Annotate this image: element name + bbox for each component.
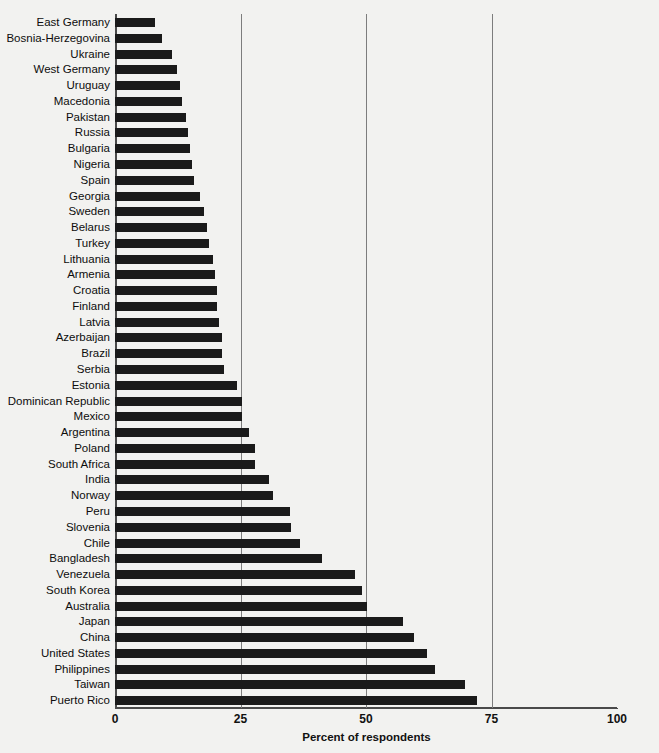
category-label: Dominican Republic	[2, 393, 110, 410]
category-label: East Germany	[2, 14, 110, 31]
bar	[115, 412, 242, 421]
bar-row: Estonia	[115, 377, 617, 394]
bar	[115, 302, 217, 311]
bar-chart: East GermanyBosnia-HerzegovinaUkraineWes…	[0, 0, 659, 753]
category-label: Sweden	[2, 203, 110, 220]
category-label: Mexico	[2, 408, 110, 425]
category-label: South Africa	[2, 456, 110, 473]
bar-row: Dominican Republic	[115, 393, 617, 410]
category-label: South Korea	[2, 582, 110, 599]
bar	[115, 192, 200, 201]
bar-row: Finland	[115, 298, 617, 315]
bar	[115, 239, 209, 248]
bar-row: Philippines	[115, 661, 617, 678]
category-label: Philippines	[2, 661, 110, 678]
category-label: Georgia	[2, 188, 110, 205]
category-label: Bangladesh	[2, 550, 110, 567]
bar-row: Chile	[115, 535, 617, 552]
category-label: Lithuania	[2, 251, 110, 268]
bar	[115, 34, 162, 43]
bar	[115, 270, 215, 279]
x-tick-label-0: 0	[112, 712, 119, 726]
category-label: Bulgaria	[2, 140, 110, 157]
bar-row: Australia	[115, 598, 617, 615]
bar	[115, 349, 222, 358]
bar	[115, 491, 273, 500]
bar	[115, 160, 192, 169]
bar-row: Bangladesh	[115, 550, 617, 567]
category-label: Australia	[2, 598, 110, 615]
bar-row: Nigeria	[115, 156, 617, 173]
bar	[115, 633, 414, 642]
category-label: Taiwan	[2, 676, 110, 693]
bar	[115, 255, 213, 264]
bar-row: Pakistan	[115, 109, 617, 126]
bar-row: Japan	[115, 613, 617, 630]
plot-area: East GermanyBosnia-HerzegovinaUkraineWes…	[115, 14, 617, 708]
category-label: India	[2, 471, 110, 488]
bar-row: Norway	[115, 487, 617, 504]
bar	[115, 18, 155, 27]
bar-row: China	[115, 629, 617, 646]
bar-row: South Korea	[115, 582, 617, 599]
bar-row: Spain	[115, 172, 617, 189]
bar-row: Sweden	[115, 203, 617, 220]
bar	[115, 696, 477, 705]
category-label: Pakistan	[2, 109, 110, 126]
category-label: Puerto Rico	[2, 692, 110, 709]
bar	[115, 460, 255, 469]
bar-row: Georgia	[115, 188, 617, 205]
category-label: Serbia	[2, 361, 110, 378]
bar	[115, 617, 403, 626]
category-label: Venezuela	[2, 566, 110, 583]
category-label: Finland	[2, 298, 110, 315]
bar	[115, 223, 207, 232]
bar	[115, 680, 465, 689]
bar-row: Mexico	[115, 408, 617, 425]
category-label: Chile	[2, 535, 110, 552]
bar	[115, 444, 255, 453]
category-label: Macedonia	[2, 93, 110, 110]
category-label: Brazil	[2, 345, 110, 362]
bar	[115, 397, 242, 406]
bar-row: Ukraine	[115, 46, 617, 63]
bar	[115, 176, 194, 185]
bar-row: Russia	[115, 124, 617, 141]
bar-row: Latvia	[115, 314, 617, 331]
bar	[115, 365, 224, 374]
bar	[115, 144, 190, 153]
category-label: West Germany	[2, 61, 110, 78]
category-label: Ukraine	[2, 46, 110, 63]
category-label: Azerbaijan	[2, 329, 110, 346]
bar	[115, 649, 427, 658]
bar	[115, 507, 290, 516]
bar	[115, 586, 362, 595]
x-tick-label-50: 50	[359, 712, 372, 726]
bar	[115, 428, 249, 437]
category-label: Bosnia-Herzegovina	[2, 30, 110, 47]
category-label: Estonia	[2, 377, 110, 394]
bar-row: Serbia	[115, 361, 617, 378]
bar	[115, 65, 177, 74]
x-axis-label: Percent of respondents	[115, 731, 618, 743]
bar	[115, 602, 367, 611]
bar	[115, 665, 435, 674]
bar-row: Armenia	[115, 266, 617, 283]
bar	[115, 81, 180, 90]
bar-row: West Germany	[115, 61, 617, 78]
bar-row: Azerbaijan	[115, 329, 617, 346]
bar	[115, 97, 182, 106]
bar	[115, 207, 204, 216]
category-label: Uruguay	[2, 77, 110, 94]
bar-row: Croatia	[115, 282, 617, 299]
bar	[115, 475, 269, 484]
bar	[115, 539, 300, 548]
bar-row: Peru	[115, 503, 617, 520]
x-tick-label-100: 100	[607, 712, 627, 726]
x-tick-label-75: 75	[485, 712, 498, 726]
category-label: Peru	[2, 503, 110, 520]
bar-row: India	[115, 471, 617, 488]
category-label: Nigeria	[2, 156, 110, 173]
category-label: Latvia	[2, 314, 110, 331]
category-label: Belarus	[2, 219, 110, 236]
